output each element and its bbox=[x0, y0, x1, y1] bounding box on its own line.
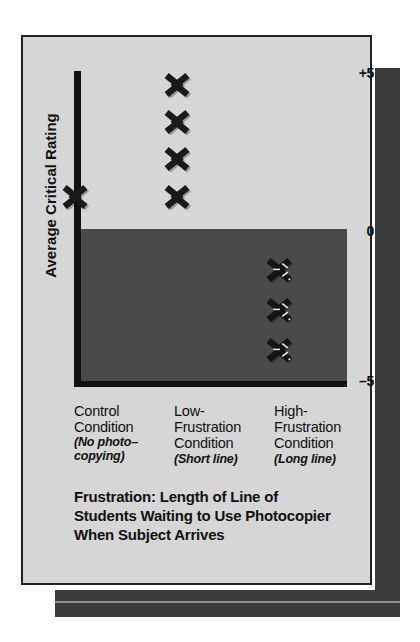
condition-high-line3: Condition bbox=[274, 435, 368, 451]
marker-low-4 bbox=[162, 184, 192, 210]
condition-control-sub1: (No photo– bbox=[74, 435, 168, 449]
condition-control-line1: Control bbox=[74, 403, 168, 419]
condition-column-control: Control Condition (No photo– copying) bbox=[74, 403, 174, 466]
card-shadow-divider bbox=[55, 601, 400, 603]
condition-low-line2: Frustration bbox=[174, 419, 268, 435]
marker-low-2 bbox=[162, 109, 192, 135]
condition-low-sub1: (Short line) bbox=[174, 452, 268, 466]
condition-low-line3: Condition bbox=[174, 435, 268, 451]
caption-line-1: Frustration: Length of Line of bbox=[74, 487, 369, 506]
y-axis-title: Average Critical Rating bbox=[42, 81, 59, 311]
condition-labels: Control Condition (No photo– copying) Lo… bbox=[74, 403, 374, 466]
marker-high-3 bbox=[264, 337, 294, 363]
negative-rating-field bbox=[74, 229, 347, 387]
card-shadow-right bbox=[375, 68, 400, 617]
marker-low-1 bbox=[162, 72, 192, 98]
condition-low-line1: Low- bbox=[174, 403, 268, 419]
condition-column-low-frustration: Low- Frustration Condition (Short line) bbox=[174, 403, 274, 466]
chart-card: +5 0 –5 Average Critical Rating bbox=[21, 35, 372, 585]
condition-control-line2: Condition bbox=[74, 419, 168, 435]
marker-high-2 bbox=[264, 297, 294, 323]
caption-line-2: Students Waiting to Use Photocopier bbox=[74, 506, 369, 525]
y-tick-label-plus5: +5 bbox=[326, 65, 374, 81]
condition-column-high-frustration: High- Frustration Condition (Long line) bbox=[274, 403, 374, 466]
plot-area: +5 0 –5 Average Critical Rating bbox=[23, 37, 374, 397]
y-axis-line bbox=[74, 71, 81, 387]
condition-control-sub2: copying) bbox=[74, 449, 168, 463]
y-tick-label-zero: 0 bbox=[326, 223, 374, 239]
marker-low-3 bbox=[162, 146, 192, 172]
caption-line-3: When Subject Arrives bbox=[74, 525, 369, 544]
condition-high-sub1: (Long line) bbox=[274, 452, 368, 466]
chart-caption: Frustration: Length of Line of Students … bbox=[74, 487, 369, 545]
y-tick-label-minus5: –5 bbox=[326, 373, 374, 389]
condition-high-line1: High- bbox=[274, 403, 368, 419]
card-shadow-bottom bbox=[55, 590, 400, 617]
marker-high-1 bbox=[264, 257, 294, 283]
marker-control-1 bbox=[60, 184, 90, 210]
condition-high-line2: Frustration bbox=[274, 419, 368, 435]
